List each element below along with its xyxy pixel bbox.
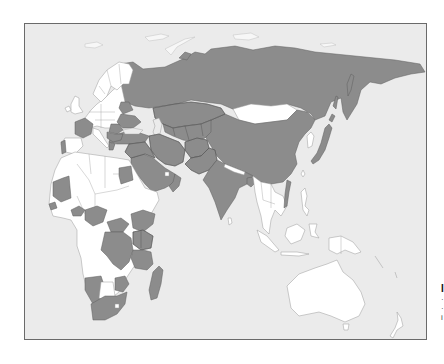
country-papua-new-guinea xyxy=(329,236,361,254)
country-portugal xyxy=(61,140,66,154)
country-ukraine xyxy=(117,114,141,128)
country-ethiopia xyxy=(131,210,155,232)
country-zimbabwe xyxy=(115,276,129,292)
world-map xyxy=(25,24,427,340)
country-vietnam xyxy=(284,180,291,208)
country-italy xyxy=(93,128,109,148)
southeast-asia xyxy=(253,176,287,234)
country-australia xyxy=(287,260,365,322)
map-frame xyxy=(24,23,427,340)
country-madagascar xyxy=(149,266,163,300)
country-japan xyxy=(311,124,332,164)
country-united-kingdom xyxy=(71,96,83,114)
country-tanzania xyxy=(131,250,153,270)
country-new-zealand xyxy=(390,312,403,338)
